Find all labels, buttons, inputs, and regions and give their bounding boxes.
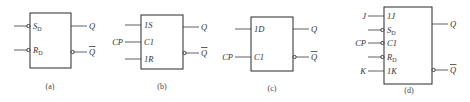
inversion-bubble-icon bbox=[381, 41, 384, 44]
pin-label: 1K bbox=[387, 66, 398, 76]
inversion-bubble-icon bbox=[381, 55, 384, 58]
pin-name: D bbox=[257, 24, 265, 34]
flip-flop-symbols-diagram: SDRDQQ(a)1SCPC11RQQ(b)1DCPC1QQ(c)J1JSDCP… bbox=[0, 0, 470, 102]
output-q-label: Q bbox=[450, 19, 456, 29]
figure-caption: (d) bbox=[404, 86, 414, 95]
output-q-bar-label: Q bbox=[201, 48, 207, 58]
pin-subscript: D bbox=[392, 57, 397, 63]
inversion-bubble-icon bbox=[432, 68, 435, 71]
inversion-bubble-icon bbox=[293, 55, 296, 58]
flip-flop-d: J1JSDCPC1RDK1KQQ(d) bbox=[355, 7, 456, 95]
pin-label: C1 bbox=[387, 38, 397, 48]
flip-flop-a: SDRDQQ(a) bbox=[14, 13, 96, 91]
figure-caption: (c) bbox=[268, 84, 277, 93]
flip-flop-b: 1SCPC11RQQ(b) bbox=[112, 15, 207, 91]
inversion-bubble-icon bbox=[71, 50, 74, 53]
pin-label: 1D bbox=[254, 24, 265, 34]
flip-flop-c: 1DCPC1QQ(c) bbox=[222, 17, 317, 93]
pin-name: C1 bbox=[254, 52, 264, 62]
figure-caption: (a) bbox=[46, 82, 55, 91]
external-input-label: CP bbox=[355, 38, 366, 48]
pin-subscript: D bbox=[38, 50, 43, 56]
output-q-label: Q bbox=[311, 24, 317, 34]
inversion-bubble-icon bbox=[183, 51, 186, 54]
pin-name: C1 bbox=[144, 37, 154, 47]
pin-label: SD bbox=[387, 25, 396, 36]
output-q-bar-label: Q bbox=[89, 47, 95, 57]
external-input-label: CP bbox=[112, 37, 123, 47]
pin-label: SD bbox=[33, 21, 42, 32]
pin-label: RD bbox=[386, 52, 397, 63]
pin-subscript: D bbox=[37, 26, 42, 32]
output-q-bar-label: Q bbox=[450, 65, 456, 75]
pin-label: 1S bbox=[144, 20, 153, 30]
pin-name: K bbox=[390, 66, 398, 76]
pin-label: RD bbox=[32, 45, 43, 56]
inversion-bubble-icon bbox=[27, 48, 30, 51]
figure-caption: (b) bbox=[157, 82, 167, 91]
pin-name: S bbox=[148, 20, 153, 30]
external-input-label: K bbox=[359, 66, 367, 76]
external-input-label: CP bbox=[222, 52, 233, 62]
external-input-label: J bbox=[362, 11, 367, 21]
pin-name: R bbox=[147, 54, 154, 64]
output-q-bar-label: Q bbox=[311, 52, 317, 62]
inversion-bubble-icon bbox=[381, 28, 384, 31]
pin-name: J bbox=[391, 11, 396, 21]
output-q-label: Q bbox=[89, 21, 95, 31]
pin-label: 1J bbox=[387, 11, 396, 21]
output-q-label: Q bbox=[201, 22, 207, 32]
pin-label: C1 bbox=[254, 52, 264, 62]
pin-name: C1 bbox=[387, 38, 397, 48]
pin-label: 1R bbox=[144, 54, 154, 64]
inversion-bubble-icon bbox=[27, 24, 30, 27]
pin-subscript: D bbox=[391, 30, 396, 36]
pin-label: C1 bbox=[144, 37, 154, 47]
